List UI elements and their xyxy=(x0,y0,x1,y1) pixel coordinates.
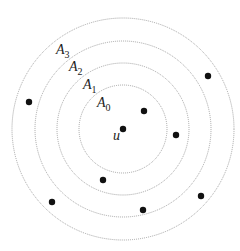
point-1 xyxy=(141,108,147,114)
center-point-u xyxy=(120,126,126,132)
point-2 xyxy=(173,132,179,138)
ring-label-a1: A1 xyxy=(82,77,97,95)
point-6 xyxy=(49,199,55,205)
point-5 xyxy=(100,177,106,183)
points-group xyxy=(26,73,211,213)
ring-labels-group: A0A1A2A3 xyxy=(55,42,111,113)
ring-label-a3: A3 xyxy=(55,42,70,60)
point-8 xyxy=(198,193,204,199)
point-7 xyxy=(140,207,146,213)
center-label-u: u xyxy=(113,128,120,143)
concentric-rings-diagram: A0A1A2A3 u xyxy=(0,0,240,251)
point-3 xyxy=(205,73,211,79)
point-4 xyxy=(26,99,32,105)
ring-label-a0: A0 xyxy=(96,95,111,113)
ring-label-a2: A2 xyxy=(68,59,83,77)
